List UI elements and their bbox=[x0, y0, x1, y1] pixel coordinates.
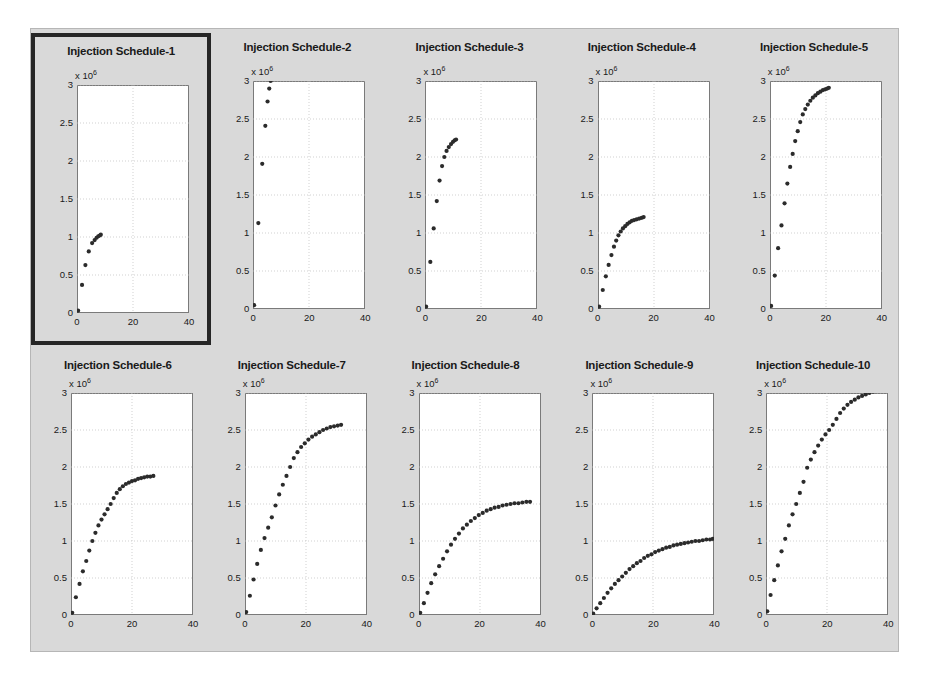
x-tick-label: 20 bbox=[811, 312, 841, 323]
plot-area[interactable]: 00.511.522.5302040 bbox=[598, 81, 710, 309]
y-axis-exponent-label: x 106 bbox=[596, 65, 618, 77]
data-point bbox=[675, 543, 679, 547]
y-axis-exponent-label: x 106 bbox=[417, 377, 439, 389]
data-point bbox=[456, 532, 460, 536]
plot-area[interactable]: 00.511.522.5302040 bbox=[425, 81, 537, 309]
gridlines bbox=[766, 393, 888, 615]
subplot-panel-8[interactable]: Injection Schedule-8x 10600.511.522.5302… bbox=[379, 351, 553, 649]
data-point bbox=[831, 423, 835, 427]
data-point bbox=[74, 595, 78, 599]
y-tick-label: 0.5 bbox=[39, 269, 73, 280]
y-tick-label: 1 bbox=[560, 227, 594, 238]
panel-title: Injection Schedule-3 bbox=[383, 41, 555, 53]
data-point bbox=[820, 438, 824, 442]
data-point bbox=[90, 539, 94, 543]
y-tick-label: 0.5 bbox=[732, 265, 766, 276]
plot-area[interactable]: 00.511.522.5302040 bbox=[766, 393, 888, 615]
plot-area[interactable]: 00.511.522.5302040 bbox=[253, 81, 365, 309]
data-point bbox=[492, 506, 496, 510]
x-tick-label: 40 bbox=[867, 312, 897, 323]
data-point bbox=[255, 562, 259, 566]
data-point bbox=[842, 406, 846, 410]
data-point bbox=[867, 393, 871, 395]
subplot-panel-10[interactable]: Injection Schedule-10x 10600.511.522.530… bbox=[726, 351, 900, 649]
x-tick-label: 0 bbox=[404, 618, 434, 629]
data-point bbox=[328, 425, 332, 429]
plot-area[interactable]: 00.511.522.5302040 bbox=[770, 81, 882, 309]
subplot-panel-4[interactable]: Injection Schedule-4x 10600.511.522.5302… bbox=[556, 33, 728, 345]
data-points-series bbox=[425, 137, 458, 308]
data-points-series bbox=[253, 81, 273, 307]
plot-area[interactable]: 00.511.522.5302040 bbox=[71, 393, 193, 615]
data-point bbox=[857, 395, 861, 399]
gridlines bbox=[592, 393, 714, 615]
data-point bbox=[321, 428, 325, 432]
data-point bbox=[606, 591, 610, 595]
data-point bbox=[245, 610, 248, 614]
subplot-panel-2[interactable]: Injection Schedule-2x 10600.511.522.5302… bbox=[211, 33, 383, 345]
exponent-base-text: x 10 bbox=[69, 378, 87, 389]
data-point bbox=[118, 487, 122, 491]
gridlines bbox=[253, 81, 365, 309]
subplot-panel-6[interactable]: Injection Schedule-6x 10600.511.522.5302… bbox=[31, 351, 205, 649]
data-point bbox=[266, 526, 270, 530]
data-point bbox=[102, 512, 106, 516]
data-point bbox=[84, 559, 88, 563]
data-point bbox=[106, 507, 110, 511]
panel-title: Injection Schedule-4 bbox=[556, 41, 728, 53]
data-point bbox=[277, 492, 281, 496]
panel-title: Injection Schedule-9 bbox=[552, 359, 726, 371]
gridlines bbox=[598, 81, 710, 309]
y-tick-label: 0.5 bbox=[554, 572, 588, 583]
subplot-panel-9[interactable]: Injection Schedule-9x 10600.511.522.5302… bbox=[552, 351, 726, 649]
panel-title: Injection Schedule-10 bbox=[726, 359, 900, 371]
data-point bbox=[827, 428, 831, 432]
gridlines bbox=[71, 393, 193, 615]
figure-panel-grid: Base Case Injection Schedule-1x 10600.51… bbox=[30, 28, 899, 652]
data-point bbox=[472, 516, 476, 520]
subplot-panel-7[interactable]: Injection Schedule-7x 10600.511.522.5302… bbox=[205, 351, 379, 649]
y-tick-label: 3 bbox=[207, 387, 241, 398]
data-points-series bbox=[245, 423, 343, 614]
x-tick-label: 20 bbox=[639, 312, 669, 323]
panel-row-bottom: Injection Schedule-6x 10600.511.522.5302… bbox=[31, 351, 900, 649]
x-tick-label: 40 bbox=[695, 312, 725, 323]
data-point bbox=[433, 572, 437, 576]
plot-area[interactable]: 00.511.522.5302040 bbox=[245, 393, 367, 615]
data-point bbox=[256, 221, 260, 225]
subplot-panel-3[interactable]: Injection Schedule-3x 10600.511.522.5302… bbox=[383, 33, 555, 345]
data-point bbox=[668, 545, 672, 549]
data-point bbox=[445, 149, 449, 153]
subplot-panel-5[interactable]: Injection Schedule-5x 10600.511.522.5302… bbox=[728, 33, 900, 345]
x-tick-label: 20 bbox=[291, 618, 321, 629]
x-tick-label: 0 bbox=[56, 618, 86, 629]
data-point bbox=[782, 201, 786, 205]
y-tick-label: 3 bbox=[560, 75, 594, 86]
x-tick-label: 40 bbox=[178, 618, 208, 629]
y-axis-exponent-label: x 106 bbox=[251, 65, 273, 77]
plot-area[interactable]: 00.511.522.5302040 bbox=[592, 393, 714, 615]
y-tick-label: 1.5 bbox=[39, 193, 73, 204]
plot-area[interactable]: 00.511.522.5302040 bbox=[77, 85, 189, 313]
exponent-power-text: 6 bbox=[87, 377, 91, 384]
plot-canvas bbox=[253, 81, 365, 309]
data-point bbox=[772, 578, 776, 582]
data-point bbox=[480, 511, 484, 515]
y-tick-label: 2 bbox=[732, 151, 766, 162]
plot-area[interactable]: 00.511.522.5302040 bbox=[419, 393, 541, 615]
y-tick-label: 0.5 bbox=[33, 572, 67, 583]
data-point bbox=[860, 394, 864, 398]
data-point bbox=[642, 556, 646, 560]
data-point bbox=[419, 611, 422, 615]
y-tick-label: 2 bbox=[33, 461, 67, 472]
data-point bbox=[291, 456, 295, 460]
data-point bbox=[77, 582, 81, 586]
data-point bbox=[248, 594, 252, 598]
data-point bbox=[679, 542, 683, 546]
data-point bbox=[281, 483, 285, 487]
x-tick-label: 40 bbox=[522, 312, 552, 323]
data-point bbox=[776, 563, 780, 567]
subplot-panel-1[interactable]: Injection Schedule-1x 10600.511.522.5302… bbox=[31, 33, 211, 345]
y-axis-exponent-label: x 106 bbox=[768, 65, 790, 77]
data-point bbox=[664, 546, 668, 550]
